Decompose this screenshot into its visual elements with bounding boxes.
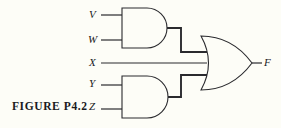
figure-caption: FIGURE P4.2	[12, 100, 88, 112]
and-gate-top	[122, 8, 167, 48]
and-gate-bottom-body	[122, 76, 168, 118]
and-gate-top-body	[122, 8, 167, 48]
wire-and-bottom-to-or	[168, 75, 207, 97]
or-gate-main	[201, 36, 252, 90]
or-gate-main-body	[201, 36, 252, 90]
input-label-x: X	[89, 57, 96, 68]
input-label-w: W	[88, 34, 97, 45]
figure-container: V W X Y Z F FIGURE P4.2	[0, 0, 281, 128]
input-label-y: Y	[89, 78, 95, 89]
input-label-z: Z	[89, 101, 95, 112]
and-gate-bottom	[122, 76, 168, 118]
output-label-f: F	[264, 57, 271, 68]
wire-and-top-to-or	[167, 28, 207, 52]
input-label-v: V	[89, 9, 96, 20]
